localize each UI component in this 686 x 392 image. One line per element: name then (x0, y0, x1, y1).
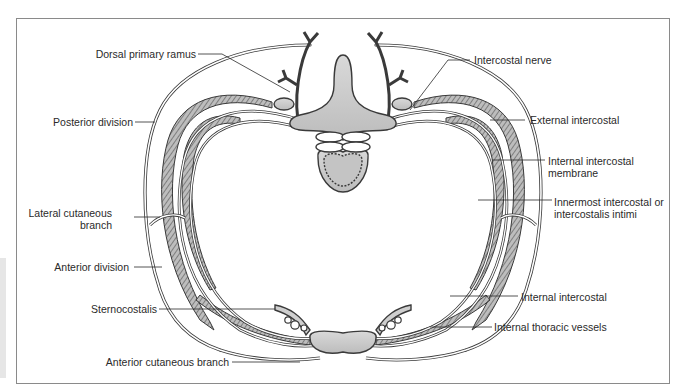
label-innermost-intercostal: Innermost intercostal or (554, 196, 664, 208)
label-sternocostalis: Sternocostalis (91, 303, 157, 315)
label-internal-intercostal-membrane-cont: membrane (548, 167, 598, 179)
label-lateral-cutaneous-branch: Lateral cutaneous (29, 207, 112, 219)
label-internal-thoracic-vessels: Internal thoracic vessels (494, 321, 607, 333)
label-external-intercostal: External intercostal (530, 114, 619, 126)
label-dorsal-primary-ramus: Dorsal primary ramus (96, 48, 196, 60)
vertebra (274, 55, 412, 192)
label-anterior-cutaneous-branch: Anterior cutaneous branch (106, 356, 229, 368)
label-internal-intercostal-membrane: Internal intercostal (548, 155, 634, 167)
label-anterior-division: Anterior division (54, 261, 129, 273)
label-intercostal-nerve: Intercostal nerve (474, 54, 552, 66)
label-internal-intercostal: Internal intercostal (521, 291, 607, 303)
label-innermost-intercostal-cont: intercostalis intimi (554, 208, 637, 220)
label-lateral-cutaneous-branch-cont: branch (80, 219, 112, 231)
label-posterior-division: Posterior division (53, 116, 133, 128)
